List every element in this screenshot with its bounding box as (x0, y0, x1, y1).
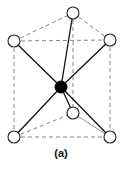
edge-top-left-to-top-right (14, 40, 110, 41)
atom-bottom-right (104, 131, 116, 143)
atom-bottom-front (67, 107, 79, 119)
atom-bottom-left (8, 131, 20, 143)
crystal-structure-diagram (0, 0, 125, 169)
atom-center (55, 81, 67, 93)
bond-center-top-left (14, 41, 61, 87)
bonds (14, 13, 110, 137)
bond-center-top-back (61, 13, 73, 87)
edge-bottom-left-to-bottom-front (14, 113, 73, 137)
figure-label: (a) (0, 147, 122, 159)
edge-top-back-to-top-right (73, 13, 110, 40)
bond-center-bottom-left (14, 87, 61, 137)
prism-edges (14, 13, 110, 137)
atoms (8, 7, 116, 143)
edge-bottom-front-to-bottom-right (73, 113, 110, 137)
bond-center-top-right (61, 40, 110, 87)
edge-top-left-to-top-back (14, 13, 73, 41)
atom-top-left (8, 35, 20, 47)
atom-top-back (67, 7, 79, 19)
atom-top-right (104, 34, 116, 46)
